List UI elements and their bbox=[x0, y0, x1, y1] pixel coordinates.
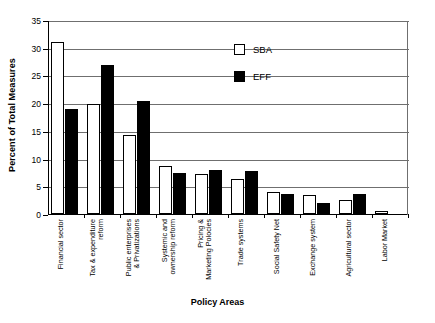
x-tick bbox=[408, 214, 409, 218]
x-axis-label: Tax & expenditurereform bbox=[90, 219, 104, 295]
x-axis-label: Agricultural sector bbox=[342, 219, 356, 295]
chart-legend: SBA EFF bbox=[234, 44, 272, 98]
bar-eff bbox=[137, 101, 150, 214]
y-tick-30 bbox=[43, 49, 48, 50]
bar-eff bbox=[317, 203, 330, 214]
y-tick-label-25: 25 bbox=[32, 72, 41, 81]
bar-sba bbox=[87, 104, 100, 214]
y-tick-20 bbox=[43, 104, 48, 105]
x-tick bbox=[264, 214, 265, 218]
bar-group bbox=[49, 20, 85, 214]
x-tick bbox=[192, 214, 193, 218]
plot-area: 05101520253035 bbox=[48, 21, 408, 215]
legend-item-sba: SBA bbox=[234, 44, 272, 55]
x-axis-label-text: Trade systems bbox=[237, 219, 245, 266]
x-tick bbox=[372, 214, 373, 218]
x-axis-title: Policy Areas bbox=[0, 297, 435, 307]
bar-group bbox=[373, 20, 409, 214]
bar-sba bbox=[123, 135, 136, 214]
legend-label-eff: EFF bbox=[253, 71, 271, 82]
x-axis-label-text: Agricultural sector bbox=[345, 219, 353, 277]
bar-eff bbox=[65, 109, 78, 214]
y-tick-label-10: 10 bbox=[32, 155, 41, 164]
legend-swatch-sba bbox=[234, 44, 245, 55]
x-axis-label-text: Public enterprises& Privatizations bbox=[125, 219, 142, 276]
x-axis-label: Labor Market bbox=[378, 219, 392, 295]
bar-sba bbox=[195, 174, 208, 214]
y-tick-15 bbox=[43, 132, 48, 133]
x-axis-category-labels: Financial sectorTax & expenditurereformP… bbox=[48, 219, 408, 295]
bar-series-container bbox=[49, 20, 409, 214]
y-tick-0 bbox=[43, 215, 48, 216]
chart-figure: Percent of Total Measures 05101520253035… bbox=[0, 0, 435, 323]
y-tick-5 bbox=[43, 187, 48, 188]
x-axis-label: Financial sector bbox=[54, 219, 68, 295]
x-axis-label: Social Safety Net bbox=[270, 219, 284, 295]
x-axis-label-text: Systemic andownership reform bbox=[161, 219, 178, 275]
bar-sba bbox=[303, 195, 316, 214]
x-axis-label: Trade systems bbox=[234, 219, 248, 295]
bar-sba bbox=[339, 200, 352, 214]
bar-group bbox=[337, 20, 373, 214]
x-tick bbox=[156, 214, 157, 218]
x-axis-label-text: Pricing &Marketing Polocies bbox=[197, 219, 214, 280]
legend-item-eff: EFF bbox=[234, 71, 272, 82]
bar-sba bbox=[51, 42, 64, 214]
y-tick-10 bbox=[43, 160, 48, 161]
y-tick-label-0: 0 bbox=[36, 211, 41, 220]
bar-group bbox=[193, 20, 229, 214]
x-tick bbox=[300, 214, 301, 218]
x-axis-label-text: Financial sector bbox=[57, 219, 65, 269]
x-axis-label-text: Labor Market bbox=[381, 219, 389, 261]
bar-eff bbox=[173, 173, 186, 214]
x-axis-label: Public enterprises& Privatizations bbox=[126, 219, 140, 295]
x-tick bbox=[228, 214, 229, 218]
x-axis-label: Systemic andownership reform bbox=[162, 219, 176, 295]
x-tick bbox=[84, 214, 85, 218]
y-tick-label-35: 35 bbox=[32, 17, 41, 26]
y-tick-35 bbox=[43, 21, 48, 22]
x-axis-label-text: Tax & expenditurereform bbox=[89, 219, 106, 277]
bar-eff bbox=[209, 170, 222, 214]
bar-group bbox=[301, 20, 337, 214]
x-tick bbox=[120, 214, 121, 218]
x-tick bbox=[336, 214, 337, 218]
bar-group bbox=[121, 20, 157, 214]
y-tick-label-5: 5 bbox=[36, 183, 41, 192]
bar-sba bbox=[159, 166, 172, 214]
y-tick-label-15: 15 bbox=[32, 128, 41, 137]
y-tick-label-20: 20 bbox=[32, 100, 41, 109]
legend-swatch-eff bbox=[234, 71, 245, 82]
legend-label-sba: SBA bbox=[253, 44, 272, 55]
x-axis-label: Pricing &Marketing Polocies bbox=[198, 219, 212, 295]
y-tick-25 bbox=[43, 76, 48, 77]
x-axis-label-text: Exchange system bbox=[309, 219, 317, 276]
bar-sba bbox=[375, 211, 388, 214]
bar-sba bbox=[231, 179, 244, 214]
bar-group bbox=[157, 20, 193, 214]
x-axis-label-text: Social Safety Net bbox=[273, 219, 281, 274]
bar-eff bbox=[101, 65, 114, 214]
bar-eff bbox=[281, 194, 294, 214]
y-tick-label-30: 30 bbox=[32, 44, 41, 53]
bar-group bbox=[85, 20, 121, 214]
y-axis-title: Percent of Total Measures bbox=[2, 0, 22, 230]
bar-eff bbox=[245, 171, 258, 214]
x-axis-label: Exchange system bbox=[306, 219, 320, 295]
bar-sba bbox=[267, 192, 280, 214]
bar-eff bbox=[353, 194, 366, 215]
